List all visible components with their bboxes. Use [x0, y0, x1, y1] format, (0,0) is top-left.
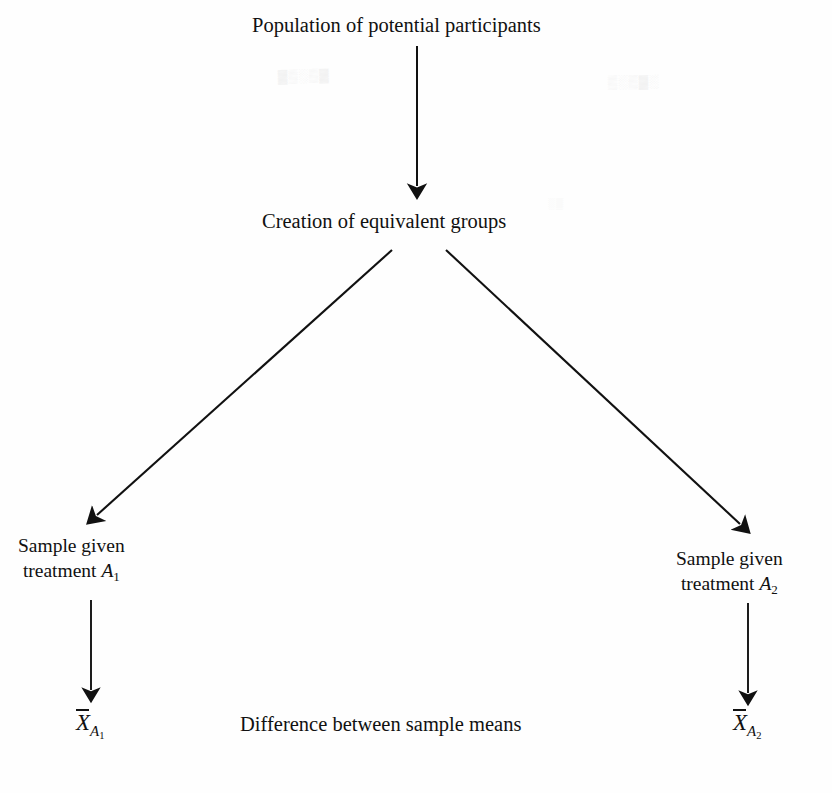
- node-left-sample-line1: Sample given: [18, 533, 125, 558]
- arrow-layer: [0, 0, 832, 793]
- node-right-sample-line1: Sample given: [676, 546, 783, 571]
- node-right-mean: XA2: [733, 707, 761, 743]
- node-right-sample-condition-letter: A: [759, 573, 771, 594]
- node-left-sample-condition-letter: A: [101, 560, 113, 581]
- right-mean-symbol: X: [733, 710, 747, 735]
- left-mean-subscript-index: 1: [99, 730, 104, 741]
- arrow-groups-to-left-sample: [97, 250, 392, 515]
- node-left-sample-condition: A1: [101, 560, 119, 581]
- left-mean-overbar-icon: [76, 709, 89, 711]
- right-mean-subscript: A2: [747, 723, 761, 739]
- node-difference-label: Difference between sample means: [240, 713, 521, 735]
- node-left-sample-treatment-word: treatment: [23, 560, 102, 581]
- node-population-label: Population of potential participants: [252, 14, 541, 36]
- node-left-mean: XA1: [76, 707, 104, 743]
- right-mean-subscript-letter: A: [747, 723, 756, 739]
- left-mean-symbol: X: [76, 710, 90, 735]
- right-mean-subscript-index: 2: [756, 730, 761, 741]
- arrow-groups-to-right-sample: [446, 250, 740, 524]
- node-right-sample-condition: A2: [759, 573, 777, 594]
- node-left-sample: Sample given treatment A1: [18, 533, 125, 587]
- diagram-canvas: ▓▒░▒▓ ▒░▒▓░ ░▒ Population of potential p…: [0, 0, 832, 793]
- node-right-sample: Sample given treatment A2: [676, 546, 783, 600]
- left-mean-subscript-letter: A: [90, 723, 99, 739]
- node-right-sample-line2: treatment A2: [676, 571, 783, 599]
- node-equivalent-groups-label: Creation of equivalent groups: [262, 210, 506, 232]
- left-mean-subscript: A1: [90, 723, 104, 739]
- right-mean-overbar-icon: [733, 709, 746, 711]
- left-mean-xbar-icon: X: [76, 707, 90, 738]
- node-right-sample-condition-index: 2: [771, 583, 778, 598]
- node-right-sample-treatment-word: treatment: [681, 573, 760, 594]
- right-mean-xbar-icon: X: [733, 707, 747, 738]
- node-left-sample-line2: treatment A1: [18, 558, 125, 586]
- node-difference: Difference between sample means: [240, 711, 521, 738]
- node-left-sample-condition-index: 1: [113, 570, 120, 585]
- node-equivalent-groups: Creation of equivalent groups: [262, 208, 506, 235]
- node-population: Population of potential participants: [252, 12, 541, 39]
